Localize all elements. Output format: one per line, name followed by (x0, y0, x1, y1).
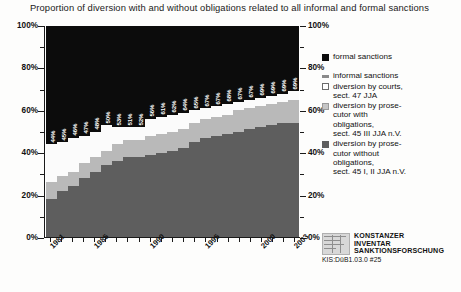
bar-segment-formal (57, 26, 67, 142)
bar-segment-without (68, 186, 78, 237)
bar-column: 53% (112, 26, 122, 237)
bar-segment-without (145, 155, 155, 237)
legend-label-informal-sanctions: informal sanctions (333, 71, 398, 80)
bar-data-label: 53% (114, 113, 121, 125)
bar-data-label: 48% (92, 118, 99, 130)
chart-page: Proportion of diversion with and without… (0, 0, 461, 292)
y-axis-right-minor-tick (300, 217, 304, 218)
bar-segment-without (277, 123, 287, 237)
bar-segment-without (90, 172, 100, 237)
bar-segment-with (145, 136, 155, 155)
bar-data-label: 69% (268, 82, 275, 94)
bar-data-label: 67% (213, 92, 220, 104)
legend-swatch-diversion-prosecutor-with-obligations (322, 103, 329, 110)
y-axis-right-tick (300, 111, 306, 112)
bar-segment-courts (68, 138, 78, 172)
bar-data-label: 65% (191, 96, 198, 108)
bar-segment-formal (112, 26, 122, 127)
bar-column: 47% (79, 26, 89, 237)
x-axis-tick (239, 238, 240, 242)
bar-column: 56% (145, 26, 155, 237)
x-axis-tick (172, 238, 173, 242)
plot-area: 44%45%46%47%48%50%53%51%52%56%61%62%64%6… (44, 26, 300, 238)
legend-label-diversion-by-courts: diversion by courts, sect. 47 JJA (333, 82, 403, 101)
legend-item-diversion-prosecutor-without-obligations: diversion by prose- cutor without obliga… (322, 139, 460, 176)
legend-label-formal-sanctions: formal sanctions (333, 52, 392, 61)
legend-item-diversion-prosecutor-with-obligations: diversion by prose- cutor with obligatio… (322, 101, 460, 138)
bar-column: 51% (123, 26, 133, 237)
bar-segment-courts (178, 113, 188, 130)
x-axis-tick (83, 238, 84, 242)
bar-column: 67% (211, 26, 221, 237)
bar-column: 65% (189, 26, 199, 237)
bar-series-container: 44%45%46%47%48%50%53%51%52%56%61%62%64%6… (45, 26, 300, 237)
bar-segment-formal (90, 26, 100, 132)
y-axis-left-minor-tick (40, 217, 44, 218)
x-axis-tick (183, 238, 184, 242)
bar-data-label: 47% (81, 122, 88, 134)
bar-column: 48% (90, 26, 100, 237)
bar-segment-courts (211, 106, 221, 117)
y-axis-left-label: 0% (0, 233, 38, 242)
legend-label-diversion-prosecutor-with-obligations: diversion by prose- cutor with obligatio… (333, 101, 402, 138)
bar-segment-with (277, 102, 287, 123)
bar-column: 67% (244, 26, 254, 237)
bar-segment-without (79, 178, 89, 237)
bar-segment-without (101, 165, 111, 237)
bar-segment-courts (167, 115, 177, 132)
y-axis-right-minor-tick (300, 174, 304, 175)
bar-segment-with (101, 151, 111, 166)
bar-segment-with (178, 129, 188, 148)
bar-segment-courts (57, 142, 67, 176)
x-axis-tick (194, 238, 195, 242)
bar-data-label: 61% (158, 103, 165, 115)
bar-data-label: 44% (48, 130, 55, 142)
bar-column: 46% (68, 26, 78, 237)
bar-column: 52% (134, 26, 144, 237)
bar-data-label: 67% (235, 88, 242, 100)
legend-swatch-informal-sanctions (322, 75, 329, 78)
bar-data-label: 64% (180, 99, 187, 111)
y-axis-right-minor-tick (300, 132, 304, 133)
bar-segment-with (123, 140, 133, 157)
bar-column: 69% (277, 26, 287, 237)
bar-segment-with (57, 176, 67, 191)
bar-segment-with (244, 108, 254, 129)
bar-segment-without (233, 132, 243, 238)
bar-segment-without (244, 129, 254, 237)
bar-segment-without (200, 138, 210, 237)
bar-segment-with (233, 110, 243, 131)
bar-segment-without (222, 134, 232, 237)
bar-segment-without (112, 161, 122, 237)
bar-segment-courts (123, 127, 133, 140)
bar-segment-courts (112, 127, 122, 144)
chart-title: Proportion of diversion with and without… (30, 2, 450, 13)
x-axis-tick (272, 238, 273, 242)
bar-segment-with (68, 172, 78, 187)
y-axis-left-tick (38, 196, 44, 197)
bar-segment-without (288, 123, 298, 237)
bar-segment-formal (123, 26, 133, 127)
bar-column: 61% (156, 26, 166, 237)
source-line-3: SANKTIONSFORSCHUNG (354, 247, 444, 255)
bar-segment-courts (233, 102, 243, 110)
bar-segment-without (255, 127, 265, 237)
y-axis-left-minor-tick (40, 174, 44, 175)
legend-swatch-diversion-prosecutor-without-obligations (322, 141, 329, 148)
bar-segment-without (178, 148, 188, 237)
y-axis-right-tick (300, 196, 306, 197)
bar-data-label: 67% (246, 86, 253, 98)
bar-segment-courts (79, 136, 89, 163)
bar-segment-with (156, 134, 166, 153)
bar-segment-with (112, 144, 122, 161)
kis-logo-icon (322, 233, 350, 255)
bar-segment-without (189, 142, 199, 237)
bar-segment-formal (46, 26, 56, 144)
bar-data-label: 68% (224, 90, 231, 102)
y-axis-left-minor-tick (40, 90, 44, 91)
bar-segment-without (134, 157, 144, 237)
bar-segment-without (123, 157, 133, 237)
bar-segment-courts (156, 117, 166, 134)
bar-data-label: 62% (169, 101, 176, 113)
x-axis-tick (127, 238, 128, 242)
